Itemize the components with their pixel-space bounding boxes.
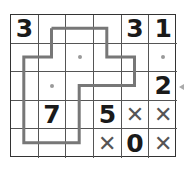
grid-cell[interactable] [11, 44, 39, 73]
grid-cell[interactable]: 3 [122, 15, 150, 44]
grid-cell[interactable] [94, 44, 122, 73]
grid-cell[interactable] [94, 15, 122, 44]
dot-marker-icon [50, 84, 54, 88]
cross-mark-icon: ✕ [98, 133, 116, 155]
clue-number: 7 [43, 102, 60, 127]
dot-marker-icon [161, 55, 165, 59]
grid-cell[interactable]: 2 [149, 72, 177, 101]
grid-cell[interactable] [39, 72, 67, 101]
grid-cell[interactable]: 5 [94, 101, 122, 130]
grid-cell[interactable] [39, 129, 67, 158]
grid-cell[interactable] [11, 101, 39, 130]
cross-mark-icon: ✕ [154, 133, 172, 155]
clue-number: 1 [154, 16, 171, 41]
grid-cell[interactable]: 7 [39, 101, 67, 130]
grid-cell[interactable] [122, 44, 150, 73]
grid-cell[interactable] [122, 72, 150, 101]
grid-cell[interactable] [66, 72, 94, 101]
cross-mark-icon: ✕ [154, 104, 172, 126]
grid-cell[interactable]: 1 [149, 15, 177, 44]
grid-cell[interactable] [11, 129, 39, 158]
grid-cell[interactable]: 0 [122, 129, 150, 158]
grid-cell[interactable]: 3 [11, 15, 39, 44]
grid-cell[interactable]: ✕ [94, 129, 122, 158]
grid-cell[interactable] [149, 44, 177, 73]
grid-cell[interactable] [39, 44, 67, 73]
row-indicator-arrow-icon [179, 84, 184, 90]
grid-cell[interactable] [94, 72, 122, 101]
cross-mark-icon: ✕ [126, 104, 144, 126]
grid-cell[interactable] [39, 15, 67, 44]
puzzle-grid: 331275✕✕✕0✕ [10, 14, 176, 157]
clue-number: 2 [154, 73, 171, 98]
clue-number: 3 [16, 16, 33, 41]
grid-cell[interactable]: ✕ [149, 101, 177, 130]
grid-cell[interactable]: ✕ [149, 129, 177, 158]
grid-cell[interactable] [66, 15, 94, 44]
grid-cell[interactable] [66, 129, 94, 158]
grid-cell[interactable] [66, 44, 94, 73]
grid-cell[interactable] [11, 72, 39, 101]
clue-number: 5 [99, 102, 116, 127]
clue-number: 0 [126, 131, 143, 156]
clue-number: 3 [126, 16, 143, 41]
grid-cell[interactable]: ✕ [122, 101, 150, 130]
dot-marker-icon [78, 55, 82, 59]
grid-cell[interactable] [66, 101, 94, 130]
